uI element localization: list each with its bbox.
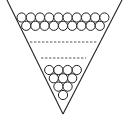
circle (77, 21, 86, 30)
circle (72, 65, 81, 74)
circle (49, 21, 58, 30)
circle (58, 74, 67, 83)
circle (91, 13, 100, 22)
circle (68, 74, 77, 83)
circle (72, 13, 81, 22)
circle (95, 21, 104, 30)
circle (100, 13, 109, 22)
circle (68, 21, 77, 30)
circle-row-9 (22, 21, 105, 30)
circle (26, 13, 35, 22)
circle (17, 13, 26, 22)
circle (22, 21, 31, 30)
circle (58, 90, 67, 99)
circle-row-3 (49, 74, 77, 83)
circle (35, 13, 44, 22)
circle (40, 21, 49, 30)
circle (31, 21, 40, 30)
circle (86, 21, 95, 30)
circle (54, 65, 63, 74)
circle-rows (17, 13, 109, 100)
inverted-triangle-circles-diagram (0, 0, 126, 125)
circle (54, 13, 63, 22)
circle (63, 13, 72, 22)
circle-row-1 (58, 90, 67, 99)
circle (45, 13, 54, 22)
circle (63, 65, 72, 74)
circle (45, 65, 54, 74)
circle (58, 21, 67, 30)
ellipsis-dashed-lines (30, 42, 97, 58)
circle (63, 82, 72, 91)
circle (54, 82, 63, 91)
circle (49, 74, 58, 83)
circle (81, 13, 90, 22)
diagram-container: Circles stacked in an inverted triangle … (0, 0, 126, 125)
